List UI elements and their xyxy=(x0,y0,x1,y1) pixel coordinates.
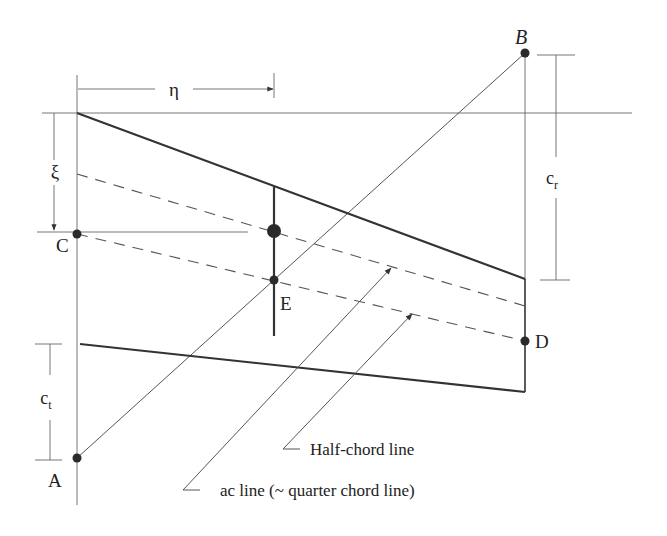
root-chord-label: c xyxy=(546,168,554,188)
point-d-marker xyxy=(521,337,530,346)
eta-label: η xyxy=(169,79,179,100)
svg-text:ct: ct xyxy=(40,388,52,412)
point-a-marker xyxy=(73,454,82,463)
tip-chord-label: c xyxy=(40,388,48,408)
xi-label: ξ xyxy=(51,161,60,182)
ac-line-annotation: ac line (~ quarter chord line) xyxy=(220,481,415,500)
section-ac-marker xyxy=(267,224,281,238)
quarter-chord-dashed-line xyxy=(77,174,525,306)
point-b-label: B xyxy=(515,26,527,48)
half-chord-annotation: Half-chord line xyxy=(310,440,414,459)
leading-edge-line xyxy=(77,113,525,279)
half-chord-leader-arrow xyxy=(283,314,412,449)
wing-outline xyxy=(77,113,525,392)
point-c-marker xyxy=(73,230,82,239)
point-c-label: C xyxy=(56,235,69,256)
point-a-label: A xyxy=(48,470,62,491)
root-chord-subscript: r xyxy=(554,178,558,192)
trailing-edge-line xyxy=(80,344,525,392)
eta-dimension: η xyxy=(77,73,274,100)
root-chord-dimension: cr xyxy=(537,55,575,280)
xi-dimension: ξ xyxy=(51,113,60,230)
tip-chord-subscript: t xyxy=(48,398,52,412)
wing-planform-diagram: η ξ cr ct C A B D E H xyxy=(0,0,667,536)
reference-lines xyxy=(37,53,632,505)
diagonal-a-b-line xyxy=(77,53,525,458)
tip-chord-dimension: ct xyxy=(35,344,62,460)
point-e-marker xyxy=(270,276,279,285)
point-b-marker xyxy=(521,49,530,58)
point-e-label: E xyxy=(280,293,292,314)
svg-text:cr: cr xyxy=(546,168,558,192)
half-chord-dashed-line xyxy=(77,234,525,341)
point-d-label: D xyxy=(535,331,549,352)
